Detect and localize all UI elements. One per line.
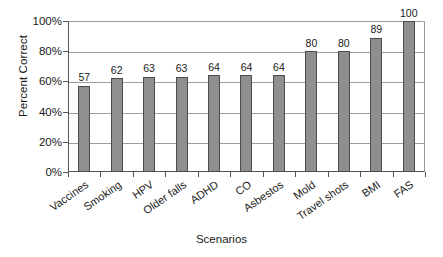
bar-slot: 63 [165,21,197,172]
bar-value-label: 64 [208,62,220,73]
y-tick-label: 60% [22,75,62,87]
bar-chart: Percent Correct 0%20%40%60%80%100% 57626… [0,0,443,257]
x-tick-mark [230,172,231,177]
bar-slot: 63 [133,21,165,172]
x-tick-mark [425,172,426,177]
x-axis-title: Scenarios [0,233,443,245]
x-tick-mark [133,172,134,177]
bar-value-label: 100 [400,8,418,19]
bar-slot: 100 [393,21,425,172]
x-tick-mark [165,172,166,177]
bars-layer: 57626363646464808089100 [68,21,425,172]
bar[interactable] [208,75,220,172]
bar-value-label: 62 [111,65,123,76]
bar[interactable] [143,77,155,172]
y-tick-label: 80% [22,45,62,57]
y-tick-label: 20% [22,136,62,148]
bar-slot: 80 [328,21,360,172]
bar[interactable] [403,21,415,172]
x-tick-mark [393,172,394,177]
bar-slot: 64 [230,21,262,172]
bar-value-label: 89 [370,24,382,35]
bar-value-label: 63 [176,63,188,74]
x-tick-mark [68,172,69,177]
x-tick-mark [295,172,296,177]
y-tick-label: 100% [22,15,62,27]
bar-slot: 62 [100,21,132,172]
x-tick-mark [100,172,101,177]
bar[interactable] [240,75,252,172]
bar[interactable] [338,51,350,172]
x-tick-mark [360,172,361,177]
bar-slot: 89 [360,21,392,172]
bar-value-label: 80 [338,38,350,49]
bar-slot: 57 [68,21,100,172]
bar-slot: 64 [263,21,295,172]
bar-value-label: 57 [78,72,90,83]
bar[interactable] [305,51,317,172]
bar-slot: 80 [295,21,327,172]
bar[interactable] [78,86,90,172]
y-tick-label: 0% [22,166,62,178]
y-tick-label: 40% [22,106,62,118]
bar[interactable] [176,77,188,172]
bar-value-label: 64 [273,62,285,73]
bar[interactable] [370,38,382,172]
x-tick-mark [263,172,264,177]
x-tick-mark [198,172,199,177]
bar[interactable] [273,75,285,172]
bar-value-label: 80 [306,38,318,49]
bar-slot: 64 [198,21,230,172]
bar-value-label: 64 [241,62,253,73]
bar[interactable] [111,78,123,172]
bar-value-label: 63 [143,63,155,74]
x-tick-mark [328,172,329,177]
